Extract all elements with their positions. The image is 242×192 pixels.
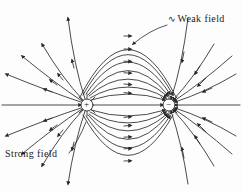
hook-mark-icon: ∿ (168, 14, 176, 24)
strong-field-label-text: Strong field (5, 148, 57, 159)
field-loop-lower-1 (91, 110, 165, 116)
negative-charge-sign: − (166, 100, 171, 109)
field-loop-upper-2 (90, 87, 166, 98)
weak-field-leader (133, 25, 167, 44)
field-loop-lower-6 (83, 115, 173, 156)
field-loop-upper-4 (88, 71, 168, 96)
strong-field-annotation: Strong field (5, 148, 57, 159)
field-loop-upper-6 (83, 55, 173, 96)
radial-lines-negative (171, 18, 236, 184)
field-loop-lower-2 (90, 112, 166, 123)
radial-lines-positive (6, 18, 85, 184)
weak-field-label-text: Weak field (177, 13, 224, 24)
field-lines-svg (0, 0, 242, 192)
field-loop-lower-5 (86, 116, 170, 148)
positive-charge-sign: + (84, 100, 89, 109)
field-loop-upper-arrowheads (124, 36, 131, 93)
dipole-field-figure: + − ∿Weak field Strong field (0, 0, 242, 192)
weak-field-annotation: ∿Weak field (168, 13, 225, 24)
field-loop-lower-4 (88, 115, 168, 140)
field-loop-upper-1 (91, 89, 165, 100)
